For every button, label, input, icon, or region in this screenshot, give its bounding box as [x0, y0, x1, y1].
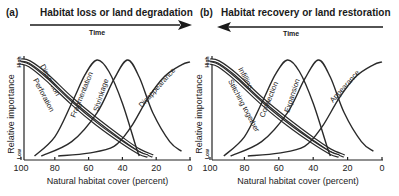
panel-b-header: (b) Habitat recovery or land restoration… — [200, 7, 391, 37]
x-tick-label: 80 — [239, 163, 249, 173]
curve-shrinkage — [41, 60, 181, 156]
x-tick-label: 100 — [202, 163, 217, 173]
label-expansion: Expansion — [282, 78, 301, 114]
x-tick-label: 20 — [343, 163, 353, 173]
x-tick-label: 40 — [308, 163, 318, 173]
x-tick-label: 100 — [13, 163, 28, 173]
y-axis-label: Relative importance — [6, 74, 16, 154]
y-low-label: Low — [16, 149, 22, 159]
panel-b-label: (b) — [200, 7, 213, 18]
label-appearance: Appearance — [328, 68, 362, 104]
x-tick-label: 60 — [274, 163, 284, 173]
panel-a-header: (a) Habitat loss or land degradation Tim… — [6, 7, 193, 36]
plot-panel-b: 100806040200Natural habitat cover (perce… — [194, 56, 385, 186]
label-shrinkage: Shrinkage — [91, 78, 110, 113]
y-high-label: High — [204, 56, 210, 67]
panel-a-title: Habitat loss or land degradation — [40, 7, 193, 18]
plot-panel-a: 100806040200Natural habitat cover (perce… — [6, 56, 193, 186]
y-axis-label: Relative importance — [194, 74, 204, 154]
x-tick-label: 20 — [151, 163, 161, 173]
x-axis-label: Natural habitat cover (percent) — [47, 176, 169, 186]
panel-a-label: (a) — [6, 7, 18, 18]
x-axis-label: Natural habitat cover (percent) — [237, 176, 359, 186]
panel-b-title: Habitat recovery or land restoration — [221, 7, 391, 18]
x-tick-label: 0 — [187, 163, 192, 173]
panel-b-time-label: Time — [283, 30, 299, 37]
x-tick-label: 60 — [84, 163, 94, 173]
panel-a-time-label: Time — [89, 29, 105, 36]
x-tick-label: 40 — [117, 163, 127, 173]
x-tick-label: 0 — [379, 163, 384, 173]
y-high-label: High — [16, 56, 22, 67]
figure: (a) Habitat loss or land degradation Tim… — [0, 0, 399, 196]
y-low-label: Low — [204, 149, 210, 159]
x-tick-label: 80 — [50, 163, 60, 173]
arrow-right-icon — [178, 20, 192, 30]
